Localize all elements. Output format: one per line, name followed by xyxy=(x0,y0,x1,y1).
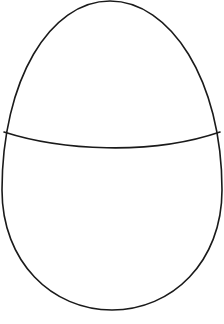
egg-svg xyxy=(0,0,224,324)
egg-drawing xyxy=(0,0,224,324)
